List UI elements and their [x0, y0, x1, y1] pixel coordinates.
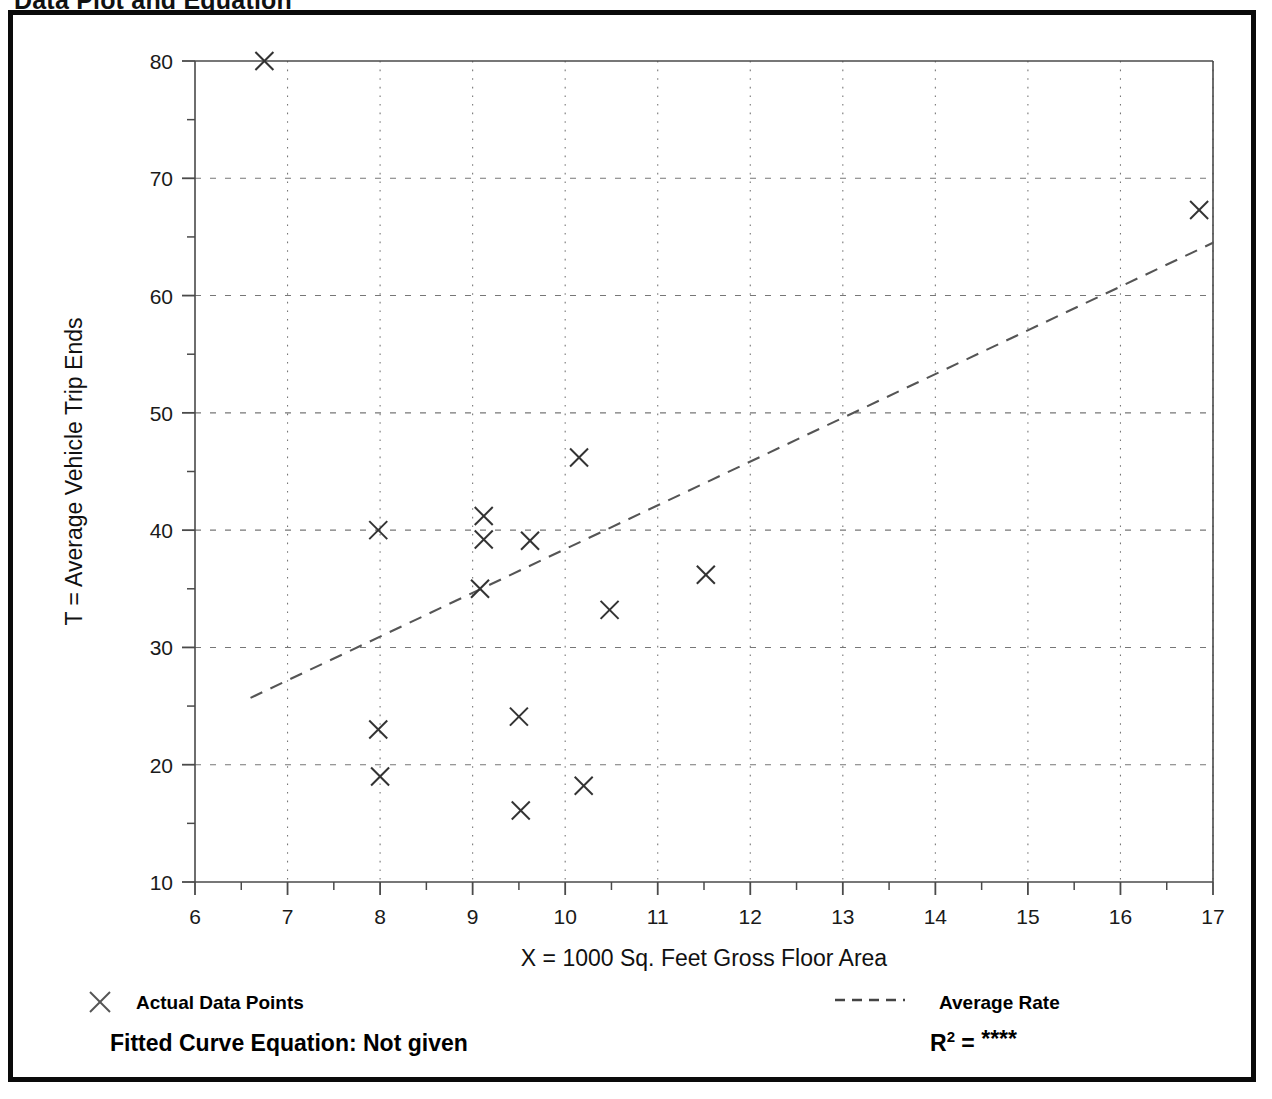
x-tick-label: 10: [554, 905, 577, 928]
x-tick-label: 14: [924, 905, 948, 928]
legend-label-average-rate: Average Rate: [939, 992, 1060, 1013]
data-point-marker: [697, 566, 715, 584]
y-axis-title: T = Average Vehicle Trip Ends: [61, 318, 87, 626]
y-tick-label: 70: [150, 167, 173, 190]
annotations-row: Fitted Curve Equation: Not givenR2 = ***…: [110, 1026, 1017, 1056]
y-tick-label: 20: [150, 754, 173, 777]
x-tick-label: 9: [467, 905, 479, 928]
y-tick-label: 10: [150, 871, 173, 894]
y-tick-label: 30: [150, 636, 173, 659]
r-squared-value: R2 = ****: [930, 1026, 1017, 1056]
y-tick-label: 50: [150, 402, 173, 425]
data-point-marker: [601, 601, 619, 619]
legend-label-actual-data-points: Actual Data Points: [136, 992, 304, 1013]
chart-legend: Actual Data PointsAverage Rate: [90, 992, 1060, 1013]
data-point-marker: [475, 531, 493, 549]
y-tick-label: 40: [150, 519, 173, 542]
data-point-marker: [521, 532, 539, 550]
x-tick-label: 6: [189, 905, 201, 928]
x-tick-label: 15: [1016, 905, 1039, 928]
y-axis-tick-labels: 1020304050607080: [150, 50, 173, 894]
x-tick-label: 16: [1109, 905, 1132, 928]
x-tick-label: 7: [282, 905, 294, 928]
x-tick-label: 11: [647, 905, 669, 928]
scatter-chart: 102030405060708067891011121314151617T = …: [0, 0, 1272, 1099]
x-tick-label: 17: [1201, 905, 1224, 928]
x-axis-title: X = 1000 Sq. Feet Gross Floor Area: [521, 945, 887, 971]
x-tick-label: 13: [831, 905, 854, 928]
data-point-marker: [575, 777, 593, 795]
grid-lines: [195, 61, 1213, 882]
data-point-marker: [1190, 201, 1208, 219]
axis-ticks: [182, 61, 1213, 895]
data-point-marker: [471, 580, 489, 598]
fitted-curve-equation: Fitted Curve Equation: Not given: [110, 1030, 468, 1056]
data-point-marker: [510, 708, 528, 726]
x-tick-label: 8: [374, 905, 386, 928]
y-tick-label: 80: [150, 50, 173, 73]
y-tick-label: 60: [150, 285, 173, 308]
data-point-marker: [369, 721, 387, 739]
x-tick-label: 12: [739, 905, 762, 928]
data-point-marker: [369, 521, 387, 539]
data-points-group: [255, 52, 1208, 819]
trend-line-average-rate: [251, 243, 1213, 698]
data-point-marker: [475, 507, 493, 525]
data-point-marker: [512, 801, 530, 819]
data-point-marker: [371, 767, 389, 785]
data-point-marker: [570, 448, 588, 466]
plot-frame: [195, 61, 1213, 882]
x-axis-tick-labels: 67891011121314151617: [189, 905, 1225, 928]
